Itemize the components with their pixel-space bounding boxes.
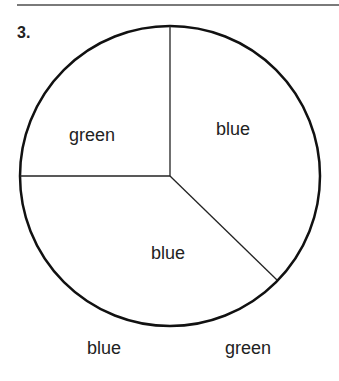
pie-chart [0,0,339,381]
slice-label-left: green [69,125,115,146]
slice-label-top-right: blue [216,119,250,140]
answer-option-blue[interactable]: blue [87,338,121,359]
slice-label-bottom: blue [151,243,185,264]
answer-option-green[interactable]: green [225,338,271,359]
